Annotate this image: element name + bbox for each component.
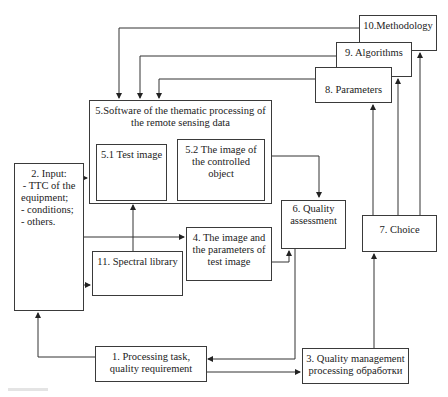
node-title: 2. Input: bbox=[15, 168, 83, 180]
node-label: 3. Quality management processing обработ… bbox=[303, 353, 408, 377]
node-input: 2. Input: - TTC of the equipment; - cond… bbox=[14, 163, 84, 311]
input-item: - conditions; bbox=[15, 204, 83, 216]
node-label: 4. The image and the parameters of test … bbox=[187, 232, 271, 268]
node-controlled-object-image: 5.2 The image of the controlled object bbox=[177, 139, 265, 201]
input-item: - others. bbox=[15, 216, 83, 228]
node-label: 5.1 Test image bbox=[97, 149, 166, 161]
edge-1-to-2 bbox=[38, 313, 95, 357]
node-quality-assessment: 6. Quality assessment bbox=[281, 200, 346, 249]
edge-9-to-5 bbox=[140, 56, 336, 98]
input-item: equipment; bbox=[15, 192, 83, 204]
node-label: 9. Algorithms bbox=[337, 47, 411, 59]
input-item: - TTC of the bbox=[15, 180, 83, 192]
figure-caption bbox=[8, 388, 48, 391]
node-spectral-library: 11. Spectral library bbox=[92, 251, 183, 296]
flow-diagram: 10.Methodology 9. Algorithms 8. Paramete… bbox=[0, 0, 448, 397]
node-label: 8. Parameters bbox=[316, 84, 391, 96]
node-parameters: 8. Parameters bbox=[315, 67, 392, 103]
node-choice: 7. Choice bbox=[362, 215, 437, 252]
edge-8-to-5 bbox=[159, 79, 315, 98]
node-label: 7. Choice bbox=[363, 224, 436, 236]
node-label: 10.Methodology bbox=[360, 20, 436, 32]
node-test-image: 5.1 Test image bbox=[96, 144, 167, 201]
node-label: 6. Quality assessment bbox=[282, 203, 345, 227]
node-label: 5.Software of the thematic processing of… bbox=[90, 105, 271, 129]
node-quality-management: 3. Quality management processing обработ… bbox=[302, 348, 409, 384]
edge-52-to-6 bbox=[271, 156, 319, 197]
node-label: 1. Processing task, quality requirement bbox=[96, 351, 206, 375]
node-label: 5.2 The image of the controlled object bbox=[178, 144, 264, 180]
node-image-and-parameters: 4. The image and the parameters of test … bbox=[186, 227, 272, 281]
edge-4-to-6 bbox=[271, 251, 289, 262]
node-label: 11. Spectral library bbox=[93, 256, 182, 268]
node-processing-task: 1. Processing task, quality requirement bbox=[95, 346, 207, 382]
